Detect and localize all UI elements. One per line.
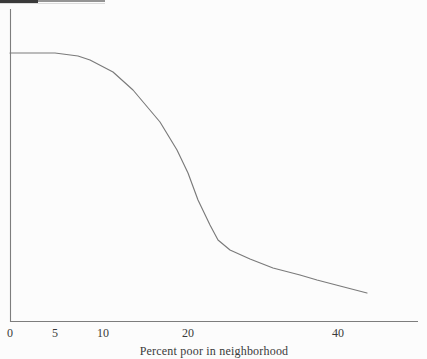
x-axis-title: Percent poor in neighborhood <box>140 345 289 357</box>
plot-area <box>0 0 427 359</box>
data-curve-line <box>10 53 367 293</box>
line-chart-figure: 05102040 Percent poor in neighborhood <box>0 0 427 359</box>
